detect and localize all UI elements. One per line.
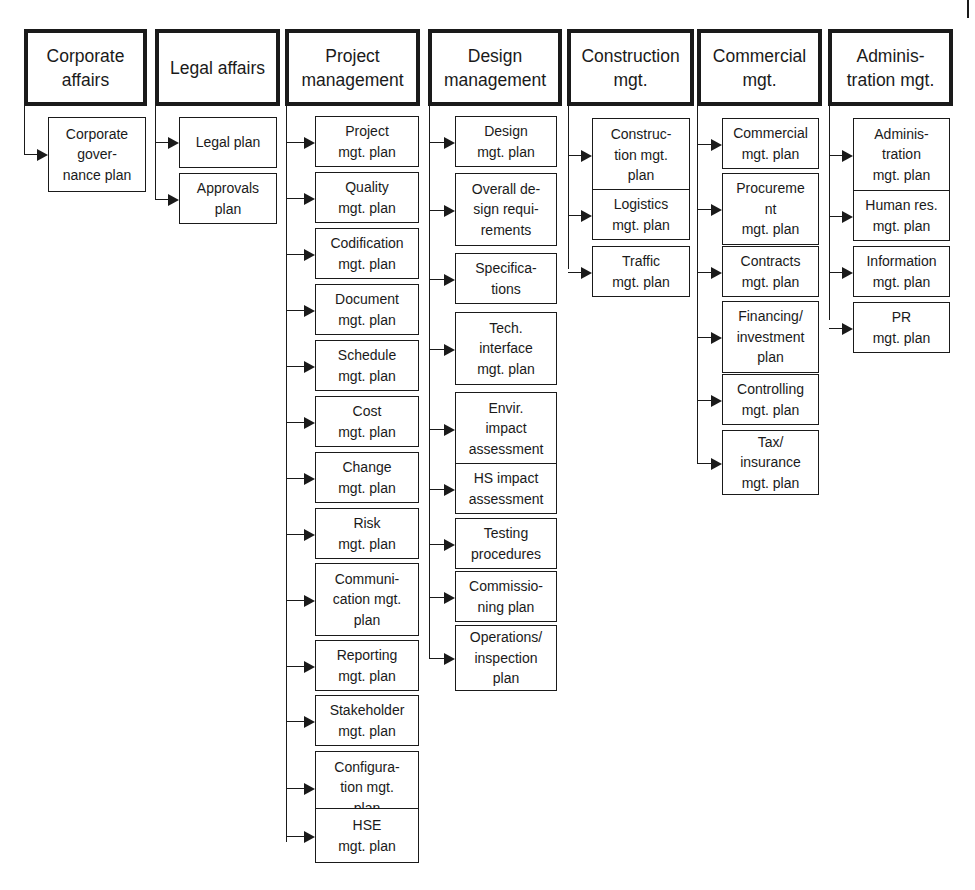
connector-line: [829, 155, 843, 156]
arrow-icon: [842, 323, 853, 335]
arrow-icon: [444, 274, 455, 286]
plan-box: Change mgt. plan: [315, 452, 419, 503]
plan-box: Controlling mgt. plan: [722, 374, 819, 425]
arrow-icon: [304, 831, 315, 843]
plan-box: Project mgt. plan: [315, 116, 419, 167]
arrow-icon: [304, 716, 315, 728]
arrow-icon: [711, 139, 722, 151]
arrow-icon: [711, 267, 722, 279]
plan-box: Adminis- tration mgt. plan: [853, 118, 950, 191]
arrow-icon: [444, 484, 455, 496]
arrow-icon: [168, 137, 179, 149]
arrow-icon: [711, 395, 722, 407]
arrow-icon: [304, 529, 315, 541]
plan-box: Logistics mgt. plan: [592, 189, 690, 240]
plan-box: Tech. interface mgt. plan: [455, 312, 557, 385]
arrow-icon: [444, 205, 455, 217]
connector-line: [429, 106, 430, 659]
header-corporate-affairs: Corporate affairs: [24, 29, 147, 106]
arrow-icon: [711, 204, 722, 216]
connector-line: [286, 422, 305, 423]
connector-line: [24, 154, 38, 155]
plan-hierarchy-diagram: Corporate affairs Corporate gover- nance…: [0, 0, 975, 890]
connector-line: [286, 600, 305, 601]
header-design-management: Design management: [428, 29, 562, 106]
arrow-icon: [304, 417, 315, 429]
connector-line: [429, 210, 445, 211]
connector-line: [697, 337, 712, 338]
plan-box: Testing procedures: [455, 518, 557, 569]
header-project-management: Project management: [285, 29, 420, 106]
connector-line: [286, 310, 305, 311]
arrow-icon: [304, 193, 315, 205]
arrow-icon: [304, 473, 315, 485]
arrow-icon: [444, 653, 455, 665]
connector-line: [429, 349, 445, 350]
plan-box: Procureme nt mgt. plan: [722, 173, 819, 245]
connector-line: [697, 400, 712, 401]
plan-legal: Legal plan: [179, 117, 277, 168]
plan-box: Human res. mgt. plan: [853, 190, 950, 241]
header-construction-mgt: Construction mgt.: [567, 29, 694, 106]
arrow-icon: [444, 344, 455, 356]
plan-box: PR mgt. plan: [853, 302, 950, 353]
plan-box: Risk mgt. plan: [315, 508, 419, 559]
connector-line: [829, 328, 843, 329]
plan-box: Tax/ insurance mgt. plan: [722, 430, 819, 495]
connector-line: [155, 106, 156, 200]
connector-line: [429, 429, 445, 430]
connector-line: [429, 279, 445, 280]
connector-line: [697, 106, 698, 464]
arrow-icon: [444, 539, 455, 551]
connector-line: [829, 106, 830, 320]
connector-line: [286, 788, 305, 789]
plan-box: Codification mgt. plan: [315, 228, 419, 279]
plan-box: HS impact assessment: [455, 463, 557, 514]
connector-line: [568, 106, 569, 269]
arrow-icon: [444, 137, 455, 149]
connector-line: [697, 144, 712, 145]
connector-line: [568, 155, 582, 156]
connector-line: [286, 106, 287, 842]
plan-box: Schedule mgt. plan: [315, 340, 419, 391]
connector-line: [286, 721, 305, 722]
connector-line: [829, 216, 843, 217]
plan-box: Overall de- sign requi- rements: [455, 173, 557, 246]
arrow-icon: [842, 267, 853, 279]
connector-line: [429, 597, 445, 598]
arrow-icon: [304, 595, 315, 607]
arrow-icon: [304, 249, 315, 261]
connector-line: [429, 142, 445, 143]
connector-line: [24, 106, 25, 155]
plan-box: Commercial mgt. plan: [722, 118, 819, 169]
connector-line: [286, 366, 305, 367]
arrow-icon: [168, 194, 179, 206]
arrow-icon: [444, 424, 455, 436]
arrow-icon: [37, 149, 48, 161]
plan-box: Information mgt. plan: [853, 246, 950, 297]
header-legal-affairs: Legal affairs: [155, 29, 280, 106]
connector-line: [155, 142, 169, 143]
plan-box: Contracts mgt. plan: [722, 246, 819, 297]
connector-line: [429, 658, 445, 659]
plan-box: Commissio- ning plan: [455, 571, 557, 622]
connector-line: [697, 209, 712, 210]
plan-box: Construc- tion mgt. plan: [592, 118, 690, 192]
plan-corporate-governance: Corporate gover- nance plan: [48, 117, 146, 192]
connector-line: [568, 215, 582, 216]
connector-line: [429, 544, 445, 545]
arrow-icon: [842, 150, 853, 162]
plan-box: Financing/ investment plan: [722, 301, 819, 373]
connector-line: [286, 254, 305, 255]
connector-line: [697, 463, 712, 464]
plan-box: Cost mgt. plan: [315, 396, 419, 447]
arrow-icon: [444, 592, 455, 604]
connector-line: [286, 198, 305, 199]
arrow-icon: [581, 210, 592, 222]
connector-line: [829, 272, 843, 273]
arrow-icon: [711, 332, 722, 344]
arrow-icon: [304, 305, 315, 317]
connector-line: [286, 478, 305, 479]
plan-box: Envir. impact assessment: [455, 392, 557, 465]
connector-line: [568, 272, 582, 273]
